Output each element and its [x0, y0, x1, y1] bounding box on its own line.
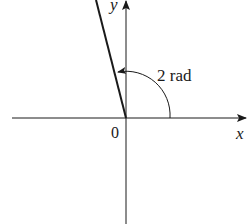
x-axis-label: x	[235, 124, 244, 143]
angle-label: 2 rad	[157, 66, 192, 85]
origin-label: 0	[111, 124, 119, 141]
terminal-ray	[96, 0, 126, 118]
y-axis-label: y	[108, 0, 118, 14]
angle-diagram: 2 rad 0 x y	[0, 0, 248, 224]
